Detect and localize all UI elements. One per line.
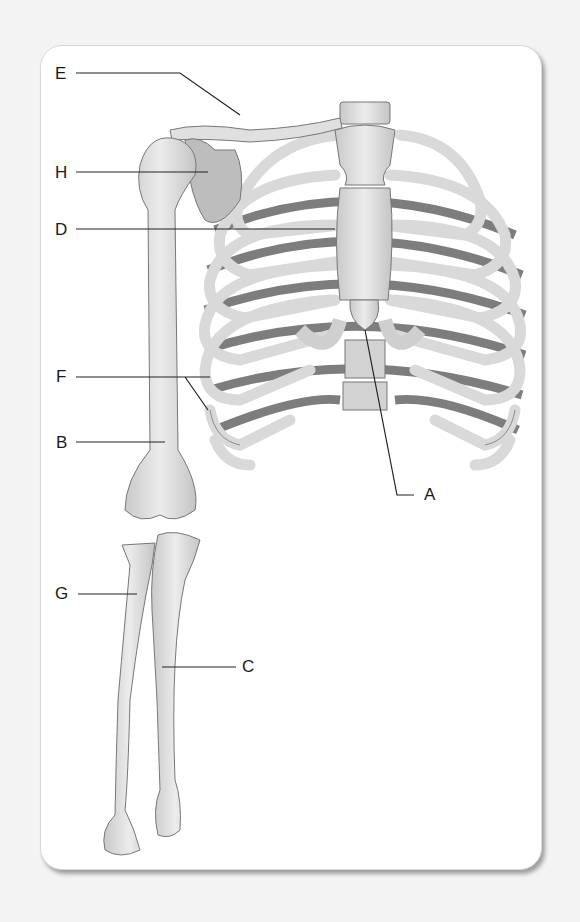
label-C: C — [242, 658, 254, 675]
sternum — [335, 102, 395, 330]
leader-E — [76, 73, 240, 115]
vertebrae — [343, 340, 387, 410]
forearm-bones — [104, 532, 200, 855]
label-F: F — [56, 368, 66, 385]
scapula — [185, 139, 242, 223]
label-H: H — [55, 164, 67, 181]
leader-F — [76, 377, 210, 410]
label-D: D — [55, 221, 67, 238]
humerus — [125, 138, 196, 519]
label-G: G — [55, 585, 68, 602]
label-A: A — [424, 486, 435, 503]
label-E: E — [55, 65, 66, 82]
skeleton-illustration — [0, 0, 580, 922]
label-B: B — [56, 434, 67, 451]
